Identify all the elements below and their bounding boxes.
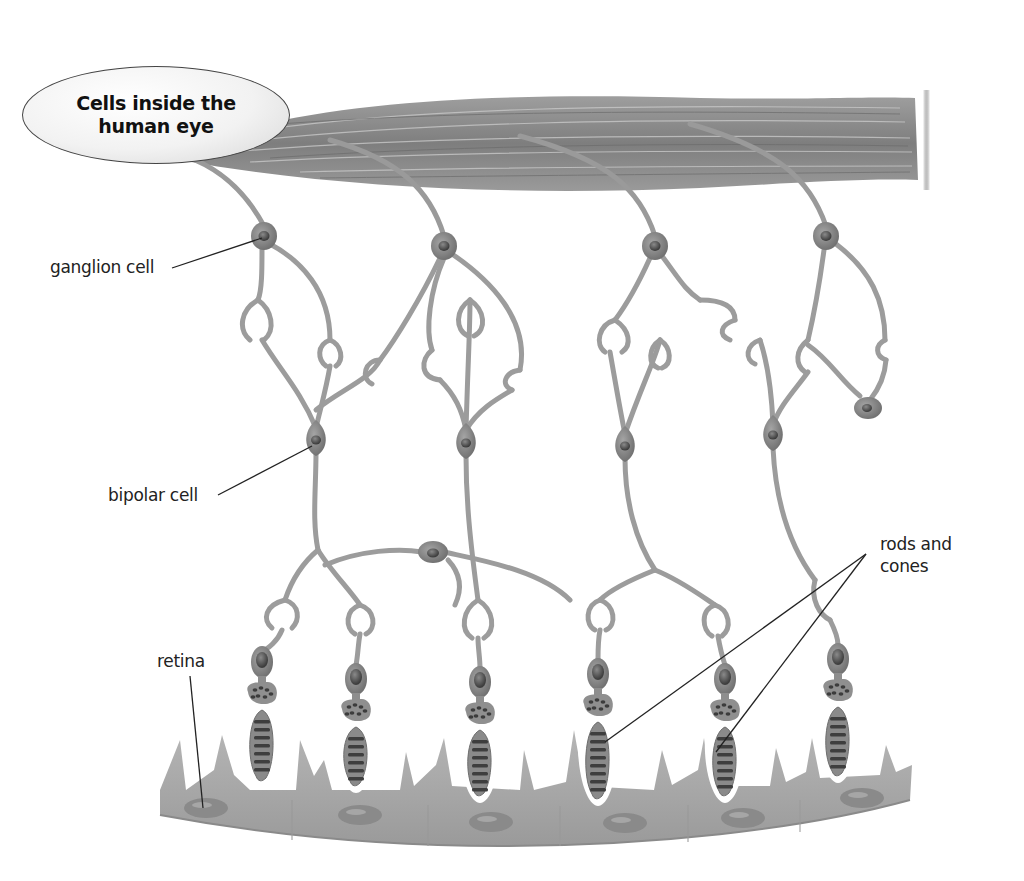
- bipolar-cell: [763, 415, 783, 451]
- diagram-title: Cells inside the human eye: [61, 92, 251, 138]
- retina-cell-nucleus: [603, 813, 647, 833]
- label-ganglion-cell: ganglion cell: [50, 256, 154, 278]
- retina-cell-nucleus: [184, 798, 228, 818]
- photoreceptor: [818, 643, 857, 783]
- rods-and-cones: [242, 643, 857, 806]
- label-rods-and-cones: rods and cones: [880, 533, 990, 577]
- retina-cell-nucleus: [338, 805, 382, 825]
- title-bubble: Cells inside the human eye: [22, 66, 290, 164]
- photoreceptor: [460, 666, 499, 803]
- label-retina: retina: [157, 650, 205, 672]
- amacrine-cell: [854, 397, 882, 419]
- ganglion-leader-line: [172, 238, 262, 268]
- bipolar-cell: [306, 420, 326, 456]
- ganglion-cell: [431, 232, 457, 260]
- photoreceptor: [705, 663, 744, 803]
- photoreceptor: [578, 658, 617, 806]
- retina-cell-nucleus: [840, 788, 884, 808]
- bipolar-cell: [615, 426, 635, 462]
- retina-cell-nucleus: [721, 808, 765, 828]
- retina-cell-nucleus: [469, 812, 513, 832]
- ganglion-cell: [813, 222, 839, 250]
- horizontal-cell: [325, 541, 570, 605]
- ganglion-cells: [251, 222, 839, 260]
- bipolar-leader-line: [218, 446, 312, 495]
- label-bipolar-cell: bipolar cell: [108, 484, 198, 506]
- nerve-fiber-bundle: [180, 90, 930, 191]
- ganglion-cell: [251, 222, 277, 250]
- photoreceptor: [242, 646, 281, 788]
- eye-cells-diagram: Cells inside the human eye ganglion cell…: [0, 0, 1024, 881]
- ganglion-cell: [642, 232, 668, 260]
- photoreceptor: [336, 663, 375, 793]
- bipolar-cells: [306, 415, 783, 462]
- bipolar-cell: [456, 423, 476, 459]
- ganglion-dendrites: [242, 244, 886, 434]
